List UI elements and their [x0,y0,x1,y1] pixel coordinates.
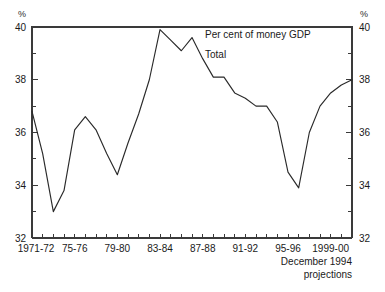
chart-annotation: Total [205,49,226,60]
y-tick-label-right: 36 [359,127,371,138]
x-tick-label: 1971-72 [18,243,55,254]
line-chart: % % 3234363840 3234363840 1971-7275-7679… [0,0,385,292]
y-axis-unit-right: % [360,9,368,19]
x-tick-label: 95-96 [275,243,301,254]
y-tick-label-left: 34 [15,180,27,191]
x-tick-label: 83-84 [147,243,173,254]
x-tick-label: 1999-00 [312,243,349,254]
y-tick-label-right: 40 [359,22,371,33]
footnote-line-1: December 1994 [281,256,353,267]
y-tick-label-right: 34 [359,180,371,191]
y-tick-label-left: 36 [15,127,27,138]
y-tick-label-right: 38 [359,74,371,85]
footnote-line-2: projections [304,269,352,280]
y-axis-unit-left: % [18,9,26,19]
y-tick-label-left: 40 [15,22,27,33]
x-tick-label: 79-80 [105,243,131,254]
y-tick-label-left: 38 [15,74,27,85]
y-tick-label-right: 32 [359,233,371,244]
x-tick-label: 87-88 [190,243,216,254]
chart-annotation: Per cent of money GDP [205,29,311,40]
x-tick-label: 75-76 [62,243,88,254]
x-tick-label: 91-92 [233,243,259,254]
chart-container: % % 3234363840 3234363840 1971-7275-7679… [0,0,385,292]
y-tick-label-left: 32 [15,233,27,244]
